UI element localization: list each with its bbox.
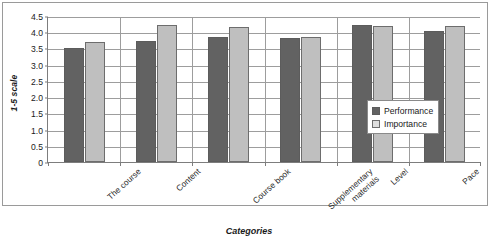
- bar-importance-level: [373, 26, 393, 162]
- y-axis-tick-mark: [45, 114, 48, 115]
- y-axis-tick-label: 4.0: [31, 28, 43, 38]
- y-axis-tick-label: 2.0: [31, 93, 43, 103]
- category-divider: [120, 17, 121, 162]
- bar-performance-content: [136, 41, 156, 162]
- legend-swatch-icon: [372, 107, 380, 115]
- y-axis-tick-mark: [45, 49, 48, 50]
- x-axis-tick-mark: [192, 162, 193, 166]
- x-axis-tick-mark: [265, 162, 266, 166]
- y-axis-title: 1-5 scale: [9, 53, 19, 133]
- y-axis-tick-label: 1.5: [31, 109, 43, 119]
- bar-group: [352, 17, 393, 162]
- bar-group: [280, 17, 321, 162]
- bar-performance-pace: [424, 31, 444, 162]
- y-axis-tick-mark: [45, 81, 48, 82]
- bar-group: [208, 17, 249, 162]
- legend-label: Performance: [384, 106, 433, 116]
- bar-importance-the-course: [85, 42, 105, 162]
- category-divider: [265, 17, 266, 162]
- category-divider: [192, 17, 193, 162]
- x-axis-tick-mark: [120, 162, 121, 166]
- legend-item-importance: Importance: [372, 117, 433, 130]
- bar-importance-content: [157, 25, 177, 162]
- bar-group: [136, 17, 177, 162]
- legend-label: Importance: [384, 119, 427, 129]
- y-axis-tick-mark: [45, 17, 48, 18]
- chart-legend: PerformanceImportance: [367, 100, 439, 134]
- y-axis-tick-mark: [45, 130, 48, 131]
- y-axis-tick-mark: [45, 98, 48, 99]
- x-axis-title: Categories: [0, 226, 498, 236]
- y-axis-tick-mark: [45, 33, 48, 34]
- bar-group: [64, 17, 105, 162]
- bar-performance-the-course: [64, 48, 84, 162]
- x-axis-tick-mark: [480, 162, 481, 166]
- bar-performance-course-book: [208, 37, 228, 162]
- category-divider: [337, 17, 338, 162]
- y-axis-tick-label: 3.0: [31, 61, 43, 71]
- y-axis-tick-label: 3.5: [31, 44, 43, 54]
- y-axis-tick-mark: [45, 65, 48, 66]
- bar-importance-course-book: [229, 27, 249, 162]
- plot-area: 00.51.01.52.02.53.03.54.04.5: [47, 17, 480, 163]
- y-axis-tick-label: 1.0: [31, 126, 43, 136]
- category-divider: [409, 17, 410, 162]
- y-axis-tick-label: 2.5: [31, 77, 43, 87]
- bar-performance-level: [352, 25, 372, 162]
- bar-group: [424, 17, 465, 162]
- y-axis-tick-label: 4.5: [31, 12, 43, 22]
- x-axis-tick-mark: [48, 162, 49, 166]
- bar-performance-supplementary-materials: [280, 38, 300, 162]
- y-axis-tick-label: 0: [38, 158, 43, 168]
- x-axis-tick-mark: [409, 162, 410, 166]
- x-axis-tick-mark: [337, 162, 338, 166]
- bar-chart: 1-5 scale 00.51.01.52.02.53.03.54.04.5 T…: [0, 0, 498, 249]
- legend-swatch-icon: [372, 120, 380, 128]
- y-axis-tick-mark: [45, 146, 48, 147]
- legend-item-performance: Performance: [372, 104, 433, 117]
- bar-importance-supplementary-materials: [301, 37, 321, 162]
- bar-importance-pace: [445, 26, 465, 162]
- y-axis-tick-label: 0.5: [31, 142, 43, 152]
